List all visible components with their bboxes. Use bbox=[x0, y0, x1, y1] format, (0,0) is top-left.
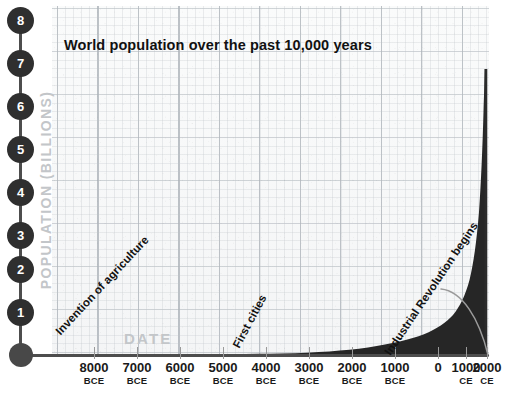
x-tick-mark-0 bbox=[94, 347, 95, 359]
y-tick-7: 7 bbox=[7, 50, 34, 77]
y-tick-8: 8 bbox=[7, 7, 34, 34]
x-axis-line bbox=[20, 354, 489, 357]
y-tick-5: 5 bbox=[7, 136, 34, 163]
x-tick-mark-8 bbox=[438, 347, 439, 359]
x-tick-mark-6 bbox=[352, 347, 353, 359]
chart-root: 8 7 6 5 4 3 2 1 8000BCE 7000BCE 6000BCE … bbox=[0, 0, 505, 400]
y-tick-label-7: 7 bbox=[17, 57, 24, 70]
x-axis-label-value: 2000 bbox=[473, 360, 502, 375]
y-tick-label-5: 5 bbox=[17, 143, 24, 156]
x-tick-mark-10 bbox=[487, 347, 488, 359]
y-tick-label-6: 6 bbox=[17, 100, 24, 113]
y-axis-origin-marker bbox=[9, 343, 33, 367]
x-tick-mark-5 bbox=[309, 347, 310, 359]
y-axis-title: POPULATION (BILLIONS) bbox=[38, 90, 54, 290]
y-tick-4: 4 bbox=[7, 179, 34, 206]
x-axis-label-era: CE bbox=[452, 376, 505, 386]
y-tick-label-2: 2 bbox=[17, 263, 24, 276]
y-tick-label-8: 8 bbox=[17, 14, 24, 27]
y-tick-label-3: 3 bbox=[17, 229, 24, 242]
y-tick-label-4: 4 bbox=[17, 186, 24, 199]
x-tick-mark-9 bbox=[466, 347, 467, 359]
x-tick-mark-4 bbox=[266, 347, 267, 359]
y-tick-1: 1 bbox=[7, 299, 34, 326]
x-axis-label-2000-ce: 2000CE bbox=[452, 361, 505, 386]
x-axis-title: DATE bbox=[124, 330, 173, 347]
y-tick-2: 2 bbox=[7, 256, 34, 283]
y-tick-label-1: 1 bbox=[17, 306, 24, 319]
y-tick-6: 6 bbox=[7, 93, 34, 120]
x-tick-mark-2 bbox=[180, 347, 181, 359]
population-area-chart bbox=[0, 0, 505, 400]
chart-title: World population over the past 10,000 ye… bbox=[64, 37, 372, 53]
x-tick-mark-1 bbox=[137, 347, 138, 359]
y-tick-3: 3 bbox=[7, 222, 34, 249]
x-tick-mark-3 bbox=[223, 347, 224, 359]
x-axis-label-era: BCE bbox=[360, 376, 430, 386]
